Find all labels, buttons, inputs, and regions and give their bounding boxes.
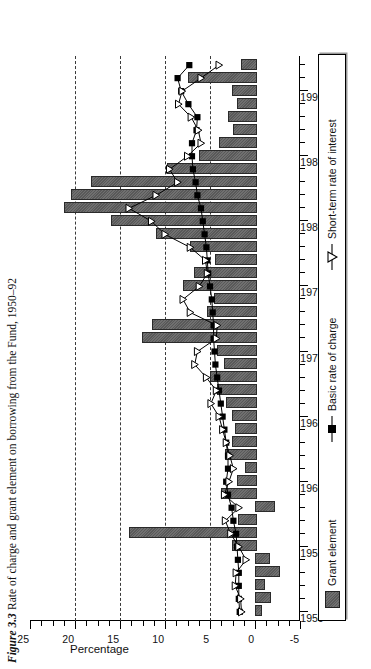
value-tick-label: 5 <box>183 633 209 645</box>
legend-item-grant-element: Grant element <box>319 519 345 608</box>
value-tick <box>199 621 200 626</box>
value-tick-label: -5 <box>273 633 299 645</box>
figure-caption: Rate of charge and grant element on borr… <box>6 278 18 610</box>
year-tick <box>300 442 305 443</box>
year-tick <box>300 181 305 182</box>
square-marker-icon <box>211 348 217 354</box>
rotated-figure-canvas: Figure 3.3 Rate of charge and grant elem… <box>0 0 371 669</box>
triangle-marker-icon <box>188 113 195 121</box>
value-tick <box>75 621 76 629</box>
value-tick <box>120 621 121 629</box>
legend-label: Short-term rate of interest <box>326 119 338 239</box>
value-tick <box>98 621 99 626</box>
square-marker-icon <box>202 231 208 237</box>
square-marker-icon <box>235 557 241 563</box>
year-tick <box>300 272 305 273</box>
value-tick <box>41 621 42 626</box>
figure-title: Figure 3.3 Rate of charge and grant elem… <box>6 278 18 663</box>
year-tick <box>300 507 305 508</box>
triangle-marker-icon <box>236 504 243 512</box>
triangle-marker-icon <box>167 165 174 173</box>
year-tick <box>300 338 305 339</box>
triangle-marker-icon <box>153 191 160 199</box>
year-tick <box>300 77 305 78</box>
year-tick <box>300 390 305 391</box>
year-tick <box>300 468 305 469</box>
square-marker-icon <box>194 192 200 198</box>
year-tick <box>300 259 305 260</box>
year-tick <box>300 64 305 65</box>
legend: Grant element Basic rate of charge Short… <box>318 54 346 621</box>
value-tick <box>289 621 290 626</box>
year-tick <box>300 520 305 521</box>
year-tick <box>300 246 305 247</box>
triangle-marker-icon <box>230 465 237 473</box>
triangle-marker-icon <box>180 295 187 303</box>
grant-element-swatch-icon <box>325 591 340 608</box>
year-tick <box>300 103 305 104</box>
triangle-marker-icon <box>198 74 205 82</box>
year-tick <box>300 311 305 312</box>
year-tick <box>300 324 305 325</box>
square-marker-icon <box>229 505 235 511</box>
square-marker-icon <box>190 166 196 172</box>
square-marker-icon <box>200 218 206 224</box>
line-square-marker-icon <box>326 416 338 442</box>
year-tick <box>300 377 305 378</box>
triangle-marker-icon <box>198 139 205 147</box>
square-marker-icon <box>210 309 216 315</box>
square-marker-icon <box>207 283 213 289</box>
legend-label: Grant element <box>326 519 338 586</box>
year-tick <box>300 168 305 169</box>
legend-item-short-term-rate: Short-term rate of interest <box>319 119 345 270</box>
square-marker-icon <box>198 205 204 211</box>
square-marker-icon <box>212 361 218 367</box>
year-tick <box>300 403 305 404</box>
legend-item-basic-rate: Basic rate of charge <box>319 318 345 442</box>
year-tick <box>300 233 305 234</box>
line-series-basic-rate <box>175 62 243 615</box>
value-tick <box>109 621 110 626</box>
figure-page: Figure 3.3 Rate of charge and grant elem… <box>0 0 371 669</box>
value-tick <box>86 621 87 626</box>
value-tick <box>64 621 65 626</box>
series-line <box>178 65 240 612</box>
year-tick <box>300 129 305 130</box>
triangle-marker-icon <box>243 556 250 564</box>
square-marker-icon <box>193 179 199 185</box>
square-marker-icon <box>175 75 181 81</box>
square-marker-icon <box>209 296 215 302</box>
square-marker-icon <box>185 101 191 107</box>
value-tick <box>131 621 132 626</box>
year-tick <box>300 572 305 573</box>
line-series-group <box>30 56 300 621</box>
value-tick <box>244 621 245 626</box>
value-tick-label: 10 <box>138 633 164 645</box>
value-tick <box>30 621 31 629</box>
line-series-short-term-rate <box>126 61 250 616</box>
year-tick <box>300 207 305 208</box>
square-marker-icon <box>203 244 209 250</box>
value-tick <box>143 621 144 626</box>
square-marker-icon <box>214 374 220 380</box>
triangle-marker-icon <box>162 230 169 238</box>
triangle-marker-icon <box>194 348 201 356</box>
value-tick <box>221 621 222 626</box>
year-tick <box>300 298 305 299</box>
year-tick <box>300 116 305 117</box>
value-tick <box>154 621 155 626</box>
year-tick <box>300 455 305 456</box>
value-tick <box>266 621 267 626</box>
square-marker-icon <box>230 518 236 524</box>
value-tick-label: 0 <box>228 633 254 645</box>
triangle-marker-icon <box>175 178 182 186</box>
plot-area: 2520151050-5 195019551960196519701975198… <box>30 56 300 621</box>
value-tick <box>176 621 177 626</box>
value-axis-title: Percentage <box>70 643 129 655</box>
year-tick <box>300 585 305 586</box>
value-tick-label: 25 <box>3 633 29 645</box>
triangle-marker-icon <box>187 308 194 316</box>
value-tick <box>53 621 54 626</box>
square-marker-icon <box>218 400 224 406</box>
year-tick <box>300 533 305 534</box>
